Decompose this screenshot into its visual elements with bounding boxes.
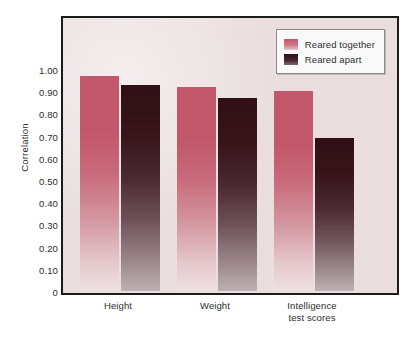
bar-height-reared-apart — [121, 85, 160, 291]
legend-item-reared-apart: Reared apart — [284, 52, 375, 66]
bar-weight-reared-together — [177, 87, 216, 291]
plot-area: Reared together Reared apart — [61, 16, 399, 295]
y-tick-label: 0.10 — [24, 266, 58, 276]
y-tick-label: 0.90 — [24, 88, 58, 98]
chart-legend: Reared together Reared apart — [276, 29, 385, 74]
y-tick-label: 0.40 — [24, 199, 58, 209]
x-tick-label-line: test scores — [252, 312, 372, 324]
y-tick-label: 1.00 — [24, 66, 58, 76]
bar-intelligence-test-scores-reared-apart — [315, 138, 354, 291]
x-axis-tick-labels: HeightWeightIntelligencetest scores — [61, 300, 399, 336]
y-tick-label: 0.70 — [24, 133, 58, 143]
legend-item-reared-together: Reared together — [284, 37, 375, 51]
bar-chart-figure: Correlation 1.000.900.800.700.600.500.40… — [0, 0, 413, 339]
y-axis-tick-labels: 1.000.900.800.700.600.500.400.300.200.10… — [22, 0, 58, 339]
bar-height-reared-together — [80, 76, 119, 291]
y-tick-label: 0.80 — [24, 110, 58, 120]
bar-weight-reared-apart — [218, 98, 257, 291]
y-tick-label: 0.60 — [24, 155, 58, 165]
legend-swatch-icon-reared-together — [284, 39, 298, 50]
y-tick-label: 0.30 — [24, 221, 58, 231]
y-tick-label: 0.50 — [24, 177, 58, 187]
y-tick-label: 0.20 — [24, 244, 58, 254]
legend-label-reared-together: Reared together — [305, 39, 375, 50]
x-tick-label-line: Intelligence — [252, 300, 372, 312]
x-tick-label: Intelligencetest scores — [252, 300, 372, 324]
legend-label-reared-apart: Reared apart — [305, 54, 362, 65]
bar-intelligence-test-scores-reared-together — [274, 91, 313, 291]
legend-swatch-icon-reared-apart — [284, 54, 298, 65]
y-tick-label: 0 — [24, 288, 58, 298]
